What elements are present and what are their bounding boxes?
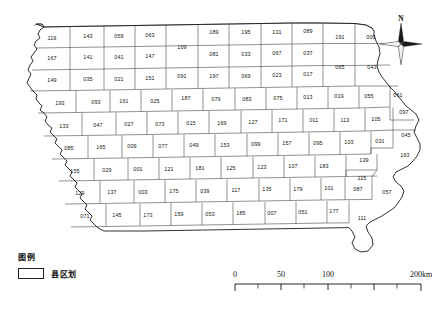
county-code-label: 061 — [393, 92, 402, 98]
county-code-label: 179 — [293, 186, 302, 192]
county-code-label: 039 — [200, 188, 209, 194]
county-code-label: 009 — [127, 143, 136, 149]
county-code-label: 085 — [64, 145, 73, 151]
scale-tick-0: 0 — [233, 270, 237, 279]
county-code-label: 089 — [303, 28, 312, 34]
county-code-label: 105 — [371, 116, 380, 122]
county-code-label: 149 — [47, 77, 56, 83]
county-code-label: 169 — [217, 120, 226, 126]
county-code-label: 083 — [242, 96, 251, 102]
county-code-label: 011 — [309, 117, 318, 123]
county-code-label: 171 — [278, 117, 287, 123]
county-code-label: 095 — [313, 140, 322, 146]
county-code-label: 041 — [114, 54, 123, 60]
county-code-label: 163 — [400, 152, 409, 158]
county-code-label: 013 — [303, 94, 312, 100]
county-code-label: 043 — [367, 64, 376, 70]
scale-bar-ruler — [232, 280, 424, 294]
county-code-label: 147 — [145, 53, 154, 59]
county-code-label: 119 — [47, 35, 56, 41]
county-code-label: 099 — [251, 141, 260, 147]
county-code-label: 173 — [143, 212, 152, 218]
county-code-label: 093 — [91, 99, 100, 105]
county-code-label: 017 — [303, 71, 312, 77]
legend-swatch-county — [18, 268, 44, 279]
scale-tick-100: 100 — [322, 270, 334, 279]
county-code-label: 129 — [75, 190, 84, 196]
county-code-label: 175 — [169, 188, 178, 194]
county-code-label: 087 — [353, 186, 362, 192]
county-code-label: 045 — [401, 132, 410, 138]
county-code-label: 053 — [205, 211, 214, 217]
scale-tick-50: 50 — [277, 270, 285, 279]
legend-heading: 图例 — [18, 251, 35, 262]
county-code-label: 075 — [273, 95, 282, 101]
county-code-label: 113 — [340, 117, 349, 123]
county-code-label: 001 — [133, 166, 142, 172]
county-code-label: 165 — [96, 144, 105, 150]
county-code-label: 037 — [303, 50, 312, 56]
county-code-label: 071 — [80, 213, 89, 219]
county-code-label: 067 — [272, 50, 281, 56]
county-code-label: 127 — [248, 119, 257, 125]
county-code-label: 055 — [364, 93, 373, 99]
county-code-label: 135 — [262, 186, 271, 192]
county-code-label: 121 — [164, 166, 173, 172]
scale-tick-200: 200km — [410, 270, 432, 279]
county-code-label: 029 — [102, 167, 111, 173]
legend-label-county: 县区划 — [51, 268, 77, 279]
county-code-label: 159 — [174, 211, 183, 217]
legend-item-county: 县区划 — [18, 268, 77, 279]
county-code-label: 101 — [324, 185, 333, 191]
county-code-label: 193 — [55, 100, 64, 106]
county-code-label: 117 — [231, 187, 240, 193]
county-code-label: 065 — [335, 64, 344, 70]
county-code-label: 141 — [83, 54, 92, 60]
county-code-label: 051 — [298, 209, 307, 215]
county-code-label: 007 — [267, 210, 276, 216]
county-map: 1191430590631091891951310891910051671410… — [0, 0, 432, 314]
county-code-label: 025 — [150, 98, 159, 104]
county-code-label: 161 — [119, 98, 128, 104]
county-code-label: 155 — [70, 168, 79, 174]
county-code-label: 047 — [93, 122, 102, 128]
county-code-label: 133 — [59, 123, 68, 129]
county-code-label: 097 — [399, 109, 408, 115]
county-code-label: 023 — [272, 72, 281, 78]
county-code-label: 111 — [358, 215, 367, 221]
county-code-label: 123 — [257, 164, 266, 170]
county-code-label: 103 — [344, 139, 353, 145]
county-code-label: 081 — [209, 51, 218, 57]
county-code-label: 035 — [83, 76, 92, 82]
scale-bar: 050100200km — [232, 270, 424, 298]
county-code-label: 195 — [241, 29, 250, 35]
county-code-label: 131 — [272, 29, 281, 35]
county-code-label: 191 — [335, 34, 344, 40]
county-code-label: 003 — [138, 189, 147, 195]
county-code-label: 157 — [282, 140, 291, 146]
county-code-label: 015 — [186, 120, 195, 126]
county-code-label: 145 — [112, 212, 121, 218]
county-code-label: 167 — [47, 55, 56, 61]
county-code-label: 057 — [382, 189, 391, 195]
county-code-label: 107 — [288, 163, 297, 169]
county-code-label: 183 — [319, 163, 328, 169]
county-code-label: 005 — [366, 34, 375, 40]
county-code-label: 021 — [114, 76, 123, 82]
county-code-label: 115 — [357, 175, 366, 181]
county-code-label: 077 — [158, 143, 167, 149]
county-code-label: 153 — [220, 142, 229, 148]
county-code-label: 137 — [107, 189, 116, 195]
compass-rose: N — [378, 14, 424, 66]
compass-north-label: N — [378, 14, 424, 23]
county-code-label: 189 — [209, 29, 218, 35]
county-code-label: 079 — [211, 96, 220, 102]
county-code-label: 019 — [334, 93, 343, 99]
county-code-label: 139 — [359, 157, 368, 163]
county-code-label: 109 — [177, 44, 186, 50]
county-code-label: 073 — [155, 121, 164, 127]
county-code-label: 187 — [181, 95, 190, 101]
scale-bar-ticks: 050100200km — [232, 270, 424, 280]
county-code-label: 059 — [114, 33, 123, 39]
county-code-label: 063 — [145, 32, 154, 38]
